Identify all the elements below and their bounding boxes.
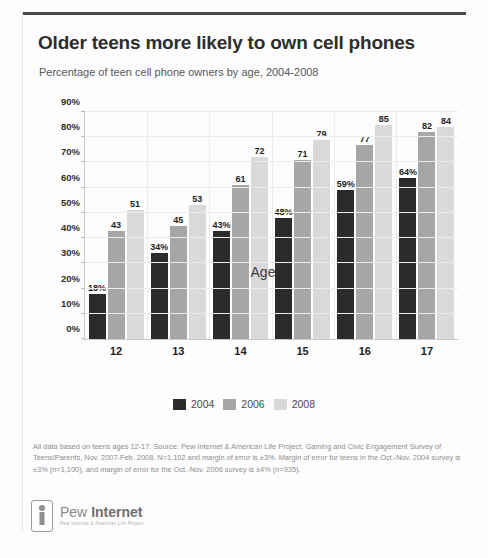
bar-group: 34%455313 [147,112,209,339]
bar-chart: 18%43511234%45531343%61721448%71791559%7… [38,104,466,354]
bar-group: 48%717915 [272,112,334,339]
bar-2006-age-12[interactable]: 43 [108,231,125,339]
bar-value-label: 45 [173,215,183,225]
bar-fill [418,132,435,339]
y-axis-tick-label: 50% [61,196,80,207]
category-separator [272,112,273,339]
legend-label: 2006 [241,398,264,410]
bar-value-label: 53 [192,194,202,204]
x-axis-tick-label: 13 [172,345,184,357]
footnote-text: All data based on teens ages 12-17. Sour… [33,441,465,475]
bar-value-label: 43% [212,220,230,230]
bar-value-label: 85 [379,114,389,124]
bar-fill [437,127,454,339]
bar-fill [170,226,187,340]
chart-card: Older teens more likely to own cell phon… [0,0,488,558]
y-tick-mark [81,111,85,112]
x-axis-tick-label: 14 [234,345,246,357]
bar-fill [313,140,330,339]
bar-fill [356,145,373,339]
y-tick-mark [81,313,85,314]
bar-2004-age-17[interactable]: 64% [399,178,416,339]
bar-fill [375,125,392,339]
logo-name-light: Pew [60,504,87,520]
chart-subtitle: Percentage of teen cell phone owners by … [39,66,459,78]
bar-value-label: 43 [111,220,121,230]
pew-internet-logo: Pew Internet Pew Internet & American Lif… [31,500,144,532]
bar-group: 43%617214 [209,112,271,339]
y-axis-tick-label: 70% [61,146,80,157]
category-separator [396,112,397,339]
legend-item-2004[interactable]: 2004 [173,398,214,410]
bar-value-label: 64% [399,167,417,177]
y-tick-mark [81,237,85,238]
x-axis-tick-label: 12 [110,345,122,357]
logo-name-bold: Internet [91,504,142,520]
top-divider [22,12,466,15]
category-separator [209,112,210,339]
legend-swatch [274,399,287,410]
card-left-border [22,12,23,532]
bar-value-label: 82 [422,121,432,131]
bar-2004-age-14[interactable]: 43% [213,231,230,339]
legend-swatch [173,399,186,410]
bar-value-label: 84 [441,116,451,126]
bar-group: 18%435112 [85,112,147,339]
bar-value-label: 34% [150,242,168,252]
logo-tagline: Pew Internet & American Life Project [60,522,144,527]
y-axis-tick-label: 10% [61,297,80,308]
bar-group: 64%828417 [396,112,458,339]
bar-value-label: 59% [337,179,355,189]
logo-title: Pew Internet [60,505,144,520]
y-axis-tick-label: 90% [61,96,80,107]
bar-2006-age-13[interactable]: 45 [170,226,187,340]
chart-legend: 200420062008 [0,398,488,410]
bar-value-label: 71 [298,149,308,159]
legend-swatch [223,399,236,410]
category-separator [334,112,335,339]
bar-2008-age-17[interactable]: 84 [437,127,454,339]
logo-text: Pew Internet Pew Internet & American Lif… [60,505,144,527]
bar-group: 59%778516 [334,112,396,339]
bar-value-label: 72 [254,146,264,156]
bar-2008-age-16[interactable]: 85 [375,125,392,339]
y-tick-mark [81,212,85,213]
y-tick-mark [81,338,85,339]
bar-fill [399,178,416,339]
legend-item-2008[interactable]: 2008 [274,398,315,410]
y-tick-mark [81,136,85,137]
bar-value-label: 79 [317,129,327,139]
x-axis-title: Age [46,264,480,280]
bar-2006-age-17[interactable]: 82 [418,132,435,339]
y-axis-tick-label: 0% [66,323,80,334]
y-axis-tick-label: 60% [61,171,80,182]
bar-2004-age-12[interactable]: 18% [89,294,106,339]
category-separator [147,112,148,339]
bar-2008-age-14[interactable]: 72 [251,157,268,339]
legend-label: 2008 [292,398,315,410]
bar-fill [108,231,125,339]
x-axis-tick-label: 17 [421,345,433,357]
bar-value-label: 61 [235,174,245,184]
bar-fill [89,294,106,339]
y-tick-mark [81,288,85,289]
bar-2006-age-16[interactable]: 77 [356,145,373,339]
pew-logo-icon [31,500,53,532]
bar-fill [213,231,230,339]
x-axis-tick-label: 16 [359,345,371,357]
bar-2008-age-15[interactable]: 79 [313,140,330,339]
y-tick-mark [81,161,85,162]
y-axis-tick-label: 80% [61,121,80,132]
y-tick-mark [81,187,85,188]
x-axis-tick-label: 15 [296,345,308,357]
legend-label: 2004 [191,398,214,410]
chart-title: Older teens more likely to own cell phon… [38,32,458,54]
plot-area: 18%43511234%45531343%61721448%71791559%7… [84,112,458,340]
y-axis-tick-label: 40% [61,222,80,233]
bar-value-label: 51 [130,199,140,209]
y-axis-tick-label: 30% [61,247,80,258]
legend-item-2006[interactable]: 2006 [223,398,264,410]
bar-fill [251,157,268,339]
